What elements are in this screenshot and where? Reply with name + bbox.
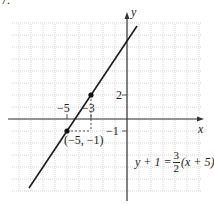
fraction-denominator: 2 [173, 163, 181, 175]
x-axis-arrow-icon [197, 117, 204, 122]
x-axis-label: x [198, 123, 203, 135]
y-axis-label: y [131, 6, 136, 18]
fraction-numerator: 3 [173, 150, 181, 163]
point-label: (−5, −1) [64, 134, 104, 146]
equation-rhs: (x + 5) [181, 156, 214, 168]
tick-label-y-2: 2 [116, 89, 122, 101]
point-neg3-2 [88, 92, 93, 97]
equation: y + 1 = 3 2 (x + 5) [135, 150, 214, 174]
diagram: 7. y x −5 −3 2 −1 (−5, −1) y + 1 = 3 2 (… [0, 0, 214, 205]
problem-number: 7. [1, 0, 10, 8]
y-axis-arrow-icon [125, 12, 130, 19]
tick-label-y-neg1: −1 [106, 125, 119, 137]
equation-lhs: y + 1 = [135, 156, 172, 168]
graph-svg [0, 0, 214, 205]
equation-fraction: 3 2 [173, 150, 181, 174]
tick-label-x-neg3: −3 [82, 102, 95, 114]
tick-label-x-neg5: −5 [57, 102, 70, 114]
